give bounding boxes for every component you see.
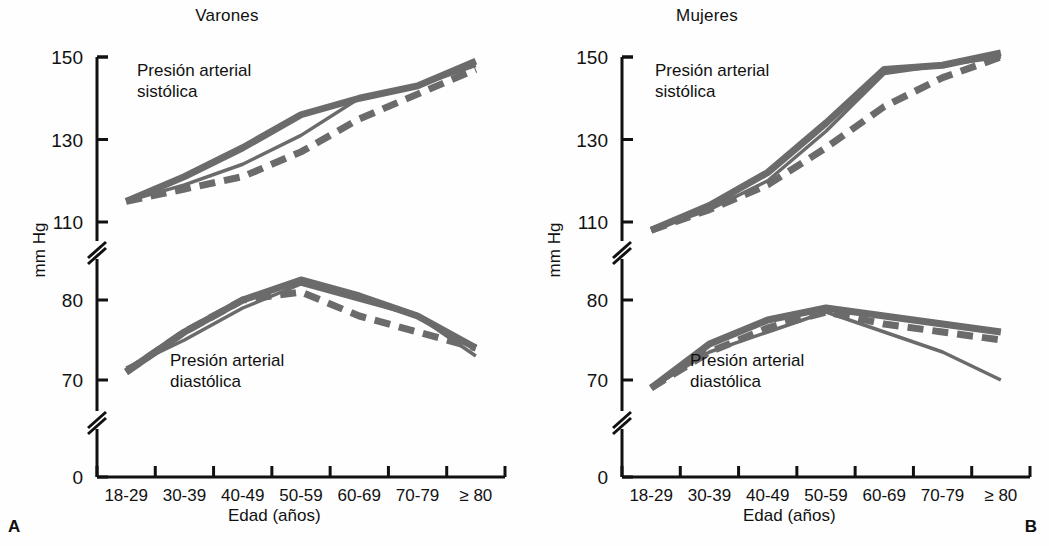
y-tick-0-label: 0 xyxy=(597,467,608,488)
panel-label-a: A xyxy=(8,517,20,537)
panel-b-x-axis-title: Edad (años) xyxy=(743,506,836,526)
panel-label-b: B xyxy=(1025,517,1037,537)
y-tick-0-label: 0 xyxy=(72,467,83,488)
panel-a-y-axis-title: mm Hg xyxy=(30,215,50,285)
y-tick-70-label: 70 xyxy=(62,370,83,391)
panel-a-title: Varones xyxy=(0,6,489,26)
y-tick-150-label: 150 xyxy=(51,47,83,68)
x-category-label: 60-69 xyxy=(338,486,381,505)
panel-a-plot: 1101301507080018-2930-3940-4950-5960-697… xyxy=(0,0,524,546)
x-category-label: 70-79 xyxy=(396,486,439,505)
x-category-label: 18-29 xyxy=(629,486,672,505)
figure-root: Varones Presión arterial sistólica Presi… xyxy=(0,0,1049,546)
y-tick-70-label: 70 xyxy=(587,370,608,391)
panel-mujeres: Mujeres Presión arterial sistólica Presi… xyxy=(525,0,1049,546)
x-category-label: 50-59 xyxy=(804,486,847,505)
y-tick-80-label: 80 xyxy=(62,290,83,311)
x-category-label: 50-59 xyxy=(279,486,322,505)
y-tick-110-label: 110 xyxy=(578,212,608,233)
x-category-label: 40-49 xyxy=(746,486,789,505)
x-category-label: ≥ 80 xyxy=(984,486,1017,505)
panel-b-title: Mujeres xyxy=(445,6,969,26)
x-category-label: 70-79 xyxy=(921,486,964,505)
panel-b-plot: 1101301507080018-2930-3940-4950-5960-697… xyxy=(525,0,1049,546)
x-category-label: ≥ 80 xyxy=(459,486,492,505)
y-tick-130-label: 130 xyxy=(51,130,83,151)
panel-a-diastolic-annotation: Presión arterial diastólica xyxy=(170,350,284,392)
panel-a-systolic-annotation: Presión arterial sistólica xyxy=(137,60,251,102)
panel-varones: Varones Presión arterial sistólica Presi… xyxy=(0,0,524,546)
x-category-label: 60-69 xyxy=(863,486,906,505)
panel-b-y-axis-title: mm Hg xyxy=(545,215,565,285)
x-category-label: 30-39 xyxy=(688,486,731,505)
y-tick-130-label: 130 xyxy=(576,130,608,151)
x-category-label: 40-49 xyxy=(221,486,264,505)
x-category-label: 18-29 xyxy=(104,486,147,505)
x-category-label: 30-39 xyxy=(163,486,206,505)
panel-b-systolic-annotation: Presión arterial sistólica xyxy=(655,60,769,102)
y-tick-150-label: 150 xyxy=(576,47,608,68)
y-tick-80-label: 80 xyxy=(587,290,608,311)
y-tick-110-label: 110 xyxy=(53,212,83,233)
panel-b-diastolic-annotation: Presión arterial diastólica xyxy=(690,350,804,392)
panel-a-x-axis-title: Edad (años) xyxy=(228,506,321,526)
